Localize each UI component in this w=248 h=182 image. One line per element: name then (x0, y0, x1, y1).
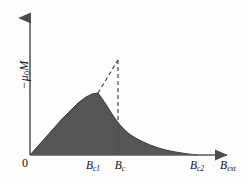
y-axis-label: −μ0M (18, 52, 32, 98)
plot-canvas (0, 0, 248, 182)
y-axis-label-main: −μ (17, 75, 31, 90)
x-tick-bc-main: B (115, 159, 122, 171)
x-tick-bc-subscript: c (122, 164, 125, 173)
origin-label: 0 (22, 157, 28, 169)
y-axis-label-tail: M (17, 61, 31, 71)
x-axis-label-subscript: ext (227, 164, 236, 173)
x-tick-bc2-subscript: c2 (197, 164, 204, 173)
x-tick-label-bc1: Bc1 (86, 160, 100, 172)
magnetisation-figure: −μ0M 0 Bc1 Bc Bc2 Bext (0, 0, 248, 182)
x-axis-label: Bext (220, 160, 236, 172)
x-tick-bc2-main: B (190, 159, 197, 171)
magnetisation-filled-area (30, 93, 198, 155)
y-axis-label-subscript: 0 (23, 71, 32, 75)
x-tick-bc1-subscript: c1 (93, 164, 100, 173)
x-axis-label-main: B (220, 159, 227, 171)
x-tick-bc1-main: B (86, 159, 93, 171)
x-tick-label-bc2: Bc2 (190, 160, 204, 172)
x-tick-label-bc: Bc (115, 160, 125, 172)
meissner-extrapolation-dashed-line (98, 60, 118, 93)
